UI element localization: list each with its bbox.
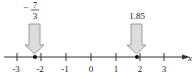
point-marker — [135, 55, 139, 59]
down-arrow-icon — [25, 24, 44, 54]
point-label: 1.85 — [129, 11, 145, 21]
pointer-one-point-eight-five: 1.85 — [127, 11, 146, 59]
down-arrow-icon — [127, 24, 146, 54]
tick-labels: -3 -2 -1 0 1 2 3 — [12, 64, 167, 74]
tick-label: 1 — [114, 64, 119, 74]
tick-label: 0 — [89, 64, 94, 74]
number-line-diagram: x -3 -2 -1 0 1 2 3 − 7 3 1.85 — [0, 0, 196, 79]
label-sign: − — [23, 2, 28, 12]
tick-label: -1 — [61, 64, 69, 74]
tick-label: -3 — [12, 64, 20, 74]
tick-label: 2 — [138, 64, 143, 74]
pointer-neg-seven-thirds: − 7 3 — [23, 0, 44, 59]
label-denominator: 3 — [33, 11, 38, 21]
tick-label: -2 — [36, 64, 44, 74]
label-numerator: 7 — [33, 0, 38, 10]
tick-label: 3 — [162, 64, 167, 74]
axis-label: x — [187, 53, 192, 63]
point-marker — [33, 55, 37, 59]
